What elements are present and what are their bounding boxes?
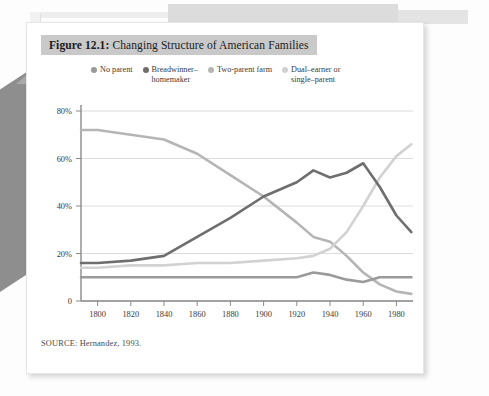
x-axis-tick-label: 1800 xyxy=(89,310,106,319)
x-axis-tick-label: 1900 xyxy=(255,310,272,319)
x-axis-tick-label: 1940 xyxy=(322,310,339,319)
legend-label: No parent xyxy=(100,65,133,75)
x-axis-tick-label: 1880 xyxy=(222,310,239,319)
legend-swatch-icon xyxy=(143,67,149,73)
series-line xyxy=(81,273,411,283)
chart-plot-area: 020%40%60%80%180018201840186018801900192… xyxy=(27,93,423,343)
figure-card: Figure 12.1: Changing Structure of Ameri… xyxy=(26,22,424,374)
x-axis-tick-label: 1820 xyxy=(122,310,139,319)
legend-swatch-icon xyxy=(208,67,214,73)
page-title: Changing Structure of American Families xyxy=(109,39,308,51)
y-axis-tick-label: 20% xyxy=(57,250,72,259)
figure-title-banner: Figure 12.1: Changing Structure of Ameri… xyxy=(41,35,317,55)
legend-swatch-icon xyxy=(282,67,288,73)
y-axis-tick-label: 80% xyxy=(57,107,72,116)
legend-label: Dual–earner or single–parent xyxy=(291,65,340,85)
x-axis-tick-label: 1920 xyxy=(288,310,305,319)
x-axis-tick-label: 1960 xyxy=(355,310,372,319)
source-note: SOURCE: Hernandez, 1993. xyxy=(41,339,141,348)
legend-label: Two-parent farm xyxy=(217,65,272,75)
line-chart: 020%40%60%80%180018201840186018801900192… xyxy=(27,93,423,343)
legend-label: Breadwinner– homemaker xyxy=(152,65,198,85)
legend-item-dual-earner-single-parent[interactable]: Dual–earner or single–parent xyxy=(282,65,340,85)
y-axis-tick-label: 60% xyxy=(57,155,72,164)
y-axis-tick-label: 0 xyxy=(68,297,72,306)
x-axis-tick-label: 1840 xyxy=(156,310,173,319)
legend-item-two-parent-farm[interactable]: Two-parent farm xyxy=(208,65,272,75)
legend-item-no-parent[interactable]: No parent xyxy=(91,65,133,75)
figure-number: Figure 12.1: xyxy=(49,39,109,51)
chart-series xyxy=(81,130,411,294)
chart-tick-labels: 020%40%60%80%180018201840186018801900192… xyxy=(57,107,405,319)
x-axis-tick-label: 1980 xyxy=(388,310,405,319)
series-line xyxy=(81,163,411,263)
x-axis-tick-label: 1860 xyxy=(189,310,206,319)
chart-legend: No parent Breadwinner– homemaker Two-par… xyxy=(91,65,411,85)
series-line xyxy=(81,130,411,294)
legend-item-breadwinner-homemaker[interactable]: Breadwinner– homemaker xyxy=(143,65,198,85)
y-axis-tick-label: 40% xyxy=(57,202,72,211)
legend-swatch-icon xyxy=(91,67,97,73)
